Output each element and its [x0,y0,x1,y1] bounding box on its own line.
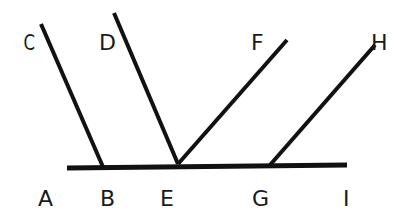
ray-ef [178,40,287,164]
geometry-diagram: C D F H A B E G I [0,0,408,224]
label-f: F [251,30,264,55]
label-a: A [38,186,53,211]
label-g: G [252,186,269,211]
ray-ed [114,13,178,164]
label-c: C [24,30,36,56]
label-b: B [100,186,115,211]
label-i: I [343,186,350,211]
label-d: D [99,30,116,55]
label-h: H [371,30,388,55]
base-line-ai [67,165,347,168]
label-e: E [160,186,174,211]
ray-bc [41,24,103,167]
ray-gh [270,45,375,165]
